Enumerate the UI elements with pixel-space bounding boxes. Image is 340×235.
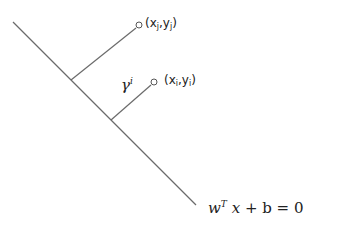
point-i-label: (xi,yi) [164,73,196,88]
distance-line-j [71,28,136,80]
point-j-marker [136,22,142,28]
hyperplane-line [13,22,196,205]
point-j-label: (xj,yj) [145,16,177,31]
hyperplane-equation: wT x + b = 0 [208,199,303,217]
point-i-marker [151,79,157,85]
margin-gamma-label: γi [121,76,133,94]
